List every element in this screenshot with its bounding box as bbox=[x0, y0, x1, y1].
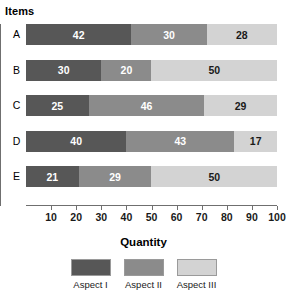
x-axis-tick-label: 100 bbox=[265, 211, 287, 223]
x-axis-title: Quantity bbox=[0, 236, 287, 248]
bar-value-label: 17 bbox=[250, 135, 262, 147]
legend-item: Aspect III bbox=[176, 259, 218, 290]
bar-value-label: 40 bbox=[70, 135, 82, 147]
legend-label: Aspect I bbox=[73, 279, 107, 290]
bar-segment: 29 bbox=[204, 95, 277, 116]
x-axis-tick-mark bbox=[101, 206, 102, 210]
category-label: E bbox=[10, 170, 23, 182]
bar-value-label: 30 bbox=[163, 29, 175, 41]
bar-segment: 25 bbox=[26, 95, 89, 116]
legend-swatch bbox=[177, 259, 217, 276]
x-axis-tick-label: 40 bbox=[114, 211, 138, 223]
category-label: B bbox=[10, 64, 23, 76]
x-axis-tick-label: 60 bbox=[165, 211, 189, 223]
bar-segment: 21 bbox=[26, 166, 79, 187]
bar-segment: 40 bbox=[26, 131, 126, 152]
x-axis-tick-mark bbox=[202, 206, 203, 210]
x-axis-tick-mark bbox=[177, 206, 178, 210]
x-axis-tick-mark bbox=[227, 206, 228, 210]
bar-value-label: 21 bbox=[47, 171, 59, 183]
bar-value-label: 42 bbox=[73, 29, 85, 41]
x-axis-tick-label: 30 bbox=[89, 211, 113, 223]
x-axis-tick-mark bbox=[252, 206, 253, 210]
category-label: D bbox=[10, 135, 23, 147]
y-axis-line bbox=[0, 24, 1, 206]
legend-item: Aspect II bbox=[123, 259, 165, 290]
bar-value-label: 29 bbox=[235, 100, 247, 112]
bar-value-label: 28 bbox=[236, 29, 248, 41]
bar-segment: 17 bbox=[234, 131, 277, 152]
x-axis-tick-mark bbox=[152, 206, 153, 210]
x-axis-tick-label: 80 bbox=[215, 211, 239, 223]
bar-segment: 46 bbox=[89, 95, 204, 116]
bar-segment: 20 bbox=[101, 60, 151, 81]
x-axis-tick-label: 70 bbox=[190, 211, 214, 223]
legend-label: Aspect II bbox=[125, 279, 162, 290]
bar-row: 302050 bbox=[26, 60, 277, 81]
bar-value-label: 20 bbox=[121, 64, 133, 76]
x-axis-tick-mark bbox=[277, 206, 278, 210]
chart-legend: Aspect IAspect IIAspect III bbox=[0, 259, 287, 290]
bar-value-label: 50 bbox=[208, 171, 220, 183]
y-axis-title: Items bbox=[5, 5, 34, 17]
x-axis-tick-mark bbox=[76, 206, 77, 210]
bar-value-label: 43 bbox=[175, 135, 187, 147]
x-axis-tick-mark bbox=[51, 206, 52, 210]
bar-segment: 30 bbox=[26, 60, 101, 81]
bar-segment: 30 bbox=[131, 24, 206, 45]
legend-item: Aspect I bbox=[70, 259, 112, 290]
bar-row: 404317 bbox=[26, 131, 277, 152]
x-axis-tick-mark bbox=[126, 206, 127, 210]
stacked-bar-chart: Items A423028B302050C254629D404317E21295… bbox=[0, 0, 287, 296]
bar-segment: 28 bbox=[207, 24, 277, 45]
bar-segment: 42 bbox=[26, 24, 131, 45]
bar-value-label: 46 bbox=[141, 100, 153, 112]
x-axis-tick-label: 90 bbox=[240, 211, 264, 223]
bar-value-label: 50 bbox=[208, 64, 220, 76]
bar-segment: 50 bbox=[151, 60, 277, 81]
x-axis-tick-label: 20 bbox=[64, 211, 88, 223]
category-label: C bbox=[10, 99, 23, 111]
legend-label: Aspect III bbox=[177, 279, 217, 290]
bar-value-label: 25 bbox=[52, 100, 64, 112]
bar-value-label: 29 bbox=[109, 171, 121, 183]
bar-value-label: 30 bbox=[58, 64, 70, 76]
x-axis-tick-label: 50 bbox=[140, 211, 164, 223]
bar-row: 254629 bbox=[26, 95, 277, 116]
legend-swatch bbox=[71, 259, 111, 276]
bar-row: 423028 bbox=[26, 24, 277, 45]
bar-row: 212950 bbox=[26, 166, 277, 187]
bar-segment: 50 bbox=[151, 166, 277, 187]
legend-swatch bbox=[124, 259, 164, 276]
x-axis-tick-label: 10 bbox=[39, 211, 63, 223]
bar-segment: 43 bbox=[126, 131, 234, 152]
bar-segment: 29 bbox=[79, 166, 152, 187]
category-label: A bbox=[10, 28, 23, 40]
